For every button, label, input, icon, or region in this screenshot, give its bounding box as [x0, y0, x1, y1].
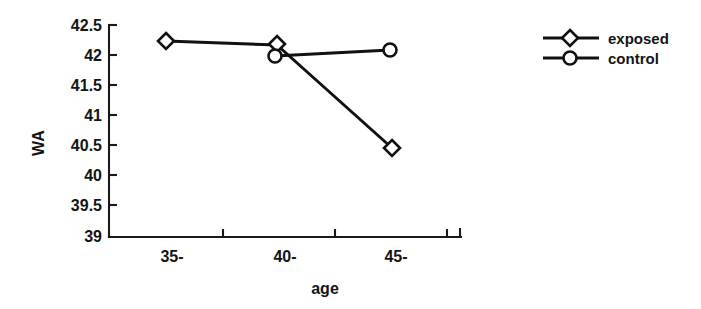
x-tick-labels: 35- 40- 45- [160, 248, 407, 265]
y-tick-label-0: 42.5 [71, 17, 102, 34]
circle-marker-icon [564, 52, 577, 65]
x-axis [109, 228, 461, 237]
diamond-marker-icon [562, 30, 578, 46]
legend-label-exposed: exposed [608, 30, 669, 47]
data-point-exposed-35 [158, 33, 174, 49]
data-point-control-40 [269, 50, 282, 63]
y-tick-label-7: 39 [84, 228, 102, 245]
series-control-line [275, 50, 390, 56]
x-tick-label-0: 35- [160, 248, 183, 265]
y-tick-label-2: 41.5 [71, 77, 102, 94]
legend-label-control: control [608, 50, 659, 67]
y-tick-label-6: 39.5 [71, 197, 102, 214]
y-tick-label-3: 41 [84, 107, 102, 124]
chart-figure: 42.5 42 41.5 41 40.5 40 39.5 39 WA 35- 4… [0, 0, 701, 309]
y-tick-label-4: 40.5 [71, 137, 102, 154]
chart-legend: exposed control [543, 30, 669, 67]
legend-entry-exposed: exposed [543, 30, 669, 47]
y-axis-title: WA [30, 130, 47, 156]
line-chart-canvas: 42.5 42 41.5 41 40.5 40 39.5 39 WA 35- 4… [0, 0, 701, 309]
y-tick-label-5: 40 [84, 167, 102, 184]
x-tick-label-2: 45- [384, 248, 407, 265]
y-tick-label-1: 42 [84, 47, 102, 64]
y-axis [109, 25, 117, 237]
data-point-control-45 [384, 44, 397, 57]
legend-entry-control: control [543, 50, 659, 67]
x-tick-label-1: 40- [273, 248, 296, 265]
x-axis-title: age [311, 280, 339, 297]
y-tick-labels: 42.5 42 41.5 41 40.5 40 39.5 39 [71, 17, 102, 245]
